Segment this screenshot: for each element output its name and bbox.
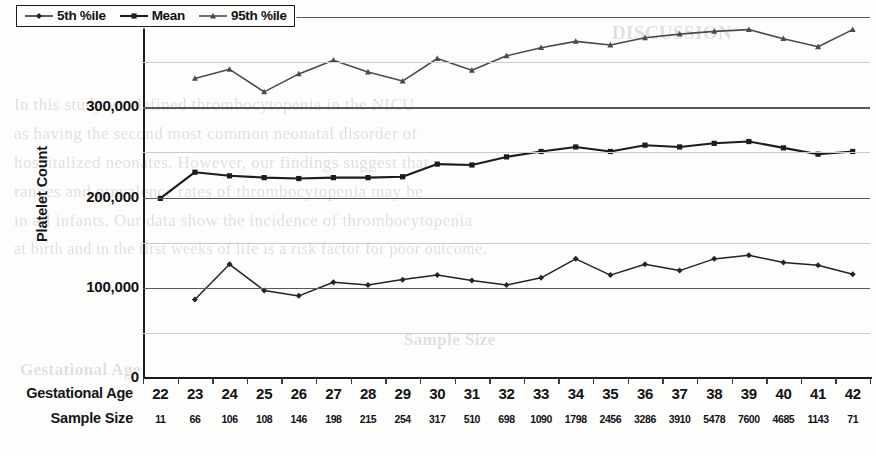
legend-label: 95th %ile [231, 8, 287, 23]
x-axis-tick [316, 378, 317, 384]
data-point-marker [504, 154, 509, 159]
sample-size-cell: 3286 [626, 413, 664, 425]
gestational-age-cell: 30 [420, 385, 454, 402]
x-axis-tick [593, 378, 594, 384]
x-axis-tick [281, 378, 282, 384]
gridline-major [143, 198, 870, 199]
sample-size-cell: 2456 [591, 413, 629, 425]
sample-size-cell: 4685 [764, 413, 802, 425]
legend-item: Mean [119, 8, 185, 23]
sample-size-cell: 71 [834, 413, 872, 425]
data-point-marker [435, 162, 440, 167]
row-header-gestational-age: Gestational Age [0, 385, 133, 401]
series-5th-ile [192, 252, 856, 302]
data-point-marker [780, 259, 786, 265]
gestational-age-cell: 41 [801, 385, 835, 402]
data-point-marker [850, 271, 856, 277]
data-point-marker [227, 173, 232, 178]
legend-label: 5th %ile [57, 8, 106, 23]
gestational-age-cell: 26 [282, 385, 316, 402]
sample-size-cell: 3910 [661, 413, 699, 425]
legend-marker-icon [24, 10, 54, 22]
series-95th-ile [192, 26, 856, 94]
data-point-marker [712, 141, 717, 146]
gestational-age-cell: 25 [247, 385, 281, 402]
gridline-major [143, 288, 870, 289]
y-axis-tick-label: 200,000 [9, 188, 139, 205]
gestational-age-cell: 34 [559, 385, 593, 402]
gridline-minor [143, 152, 870, 153]
data-point-marker [262, 175, 267, 180]
data-point-marker [642, 143, 647, 148]
data-point-marker [227, 66, 233, 72]
sample-size-cell: 698 [488, 413, 526, 425]
gridline-minor [143, 62, 870, 63]
gestational-age-cell: 27 [316, 385, 350, 402]
data-point-marker [400, 174, 405, 179]
data-point-marker [711, 256, 717, 262]
x-axis-tick [455, 378, 456, 384]
data-point-marker [469, 162, 474, 167]
chart-legend: 5th %ileMean95th %ile [16, 5, 295, 27]
data-point-marker [781, 145, 786, 150]
sample-size-cell: 146 [280, 413, 318, 425]
gestational-age-cell: 23 [178, 385, 212, 402]
sample-size-cell: 1090 [522, 413, 560, 425]
sample-size-cell: 317 [418, 413, 456, 425]
gridline-minor [143, 243, 870, 244]
data-point-marker [573, 144, 578, 149]
legend-marker-icon [198, 10, 228, 22]
gestational-age-cell: 33 [524, 385, 558, 402]
x-axis-tick [662, 378, 663, 384]
x-axis-tick [732, 378, 733, 384]
gestational-age-cell: 32 [490, 385, 524, 402]
gestational-age-cell: 28 [351, 385, 385, 402]
data-point-marker [850, 26, 856, 32]
x-axis-tick [351, 378, 352, 384]
x-axis-tick [628, 378, 629, 384]
data-point-marker [538, 275, 544, 281]
data-point-marker [192, 170, 197, 175]
x-axis-tick [385, 378, 386, 384]
x-axis-tick [178, 378, 179, 384]
sample-size-cell: 215 [349, 413, 387, 425]
series-line [160, 142, 852, 199]
x-axis-tick [558, 378, 559, 384]
sample-size-cell: 7600 [730, 413, 768, 425]
data-point-marker [365, 175, 370, 180]
sample-size-cell: 1143 [799, 413, 837, 425]
plot-area [143, 17, 870, 378]
x-axis-tick [801, 378, 802, 384]
gestational-age-cell: 29 [386, 385, 420, 402]
axis-data-table: Gestational Age 222324252627282930313233… [0, 385, 876, 435]
gestational-age-cell: 35 [593, 385, 627, 402]
legend-marker-icon [119, 10, 149, 22]
sample-size-cell: 11 [141, 413, 179, 425]
x-axis-tick [835, 378, 836, 384]
gestational-age-cell: 22 [143, 385, 177, 402]
x-axis-tick [697, 378, 698, 384]
y-axis-tick-label: 0 [9, 368, 139, 385]
sample-size-cell: 510 [453, 413, 491, 425]
legend-item: 5th %ile [24, 8, 106, 23]
legend-item: 95th %ile [198, 8, 287, 23]
data-point-marker [607, 272, 613, 278]
series-line [195, 255, 853, 299]
data-point-marker [434, 55, 440, 61]
x-axis-tick [420, 378, 421, 384]
gestational-age-cell: 24 [213, 385, 247, 402]
data-point-marker [642, 261, 648, 267]
sample-size-cell: 66 [176, 413, 214, 425]
legend-label: Mean [152, 8, 185, 23]
gridline-major [143, 107, 870, 108]
x-axis-tick [143, 378, 144, 384]
table-row-sample-size: Sample Size 1166106108146198215254317510… [0, 410, 876, 435]
data-point-marker [573, 256, 579, 262]
x-axis-tick [212, 378, 213, 384]
data-point-marker [434, 272, 440, 278]
y-axis-tick-label: 100,000 [9, 278, 139, 295]
series-line [195, 30, 853, 92]
data-point-marker [746, 139, 751, 144]
data-point-marker [746, 252, 752, 258]
sample-size-cell: 5478 [695, 413, 733, 425]
